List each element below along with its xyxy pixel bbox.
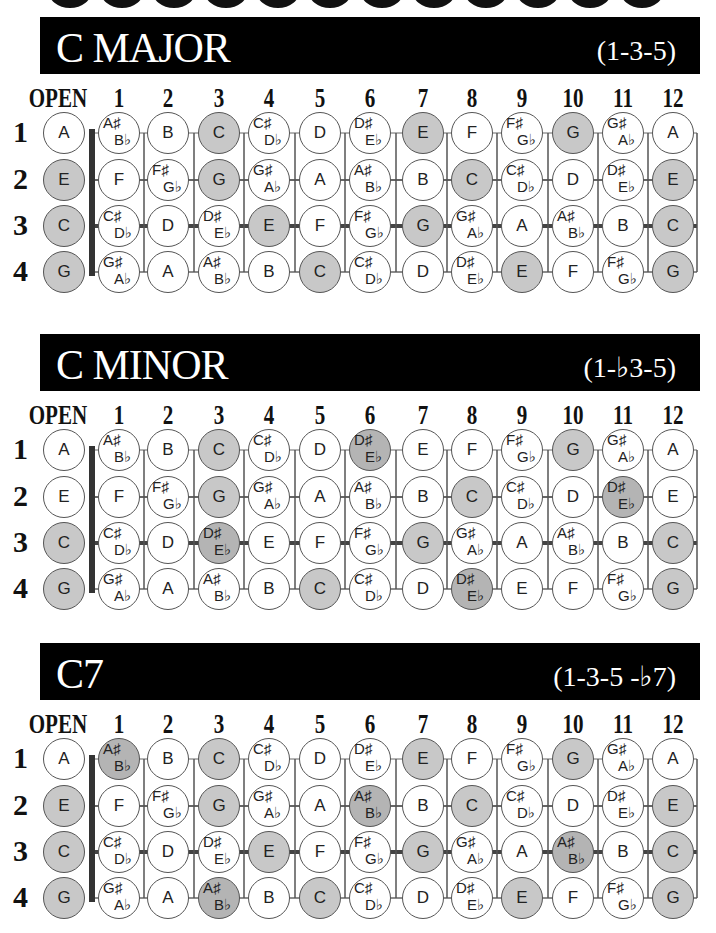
note-circle[interactable]: C: [299, 877, 341, 919]
note-circle[interactable]: C♯D♭: [501, 159, 543, 201]
note-circle[interactable]: B: [248, 568, 290, 610]
note-circle[interactable]: A♯B♭: [349, 785, 391, 827]
note-circle[interactable]: B: [147, 112, 189, 154]
note-circle[interactable]: G♯A♭: [98, 568, 140, 610]
note-circle[interactable]: C♯D♭: [349, 877, 391, 919]
note-circle[interactable]: E: [652, 476, 694, 518]
note-circle[interactable]: B: [402, 785, 444, 827]
note-circle[interactable]: A♯B♭: [98, 429, 140, 471]
note-circle[interactable]: F: [299, 831, 341, 873]
note-circle[interactable]: A: [652, 429, 694, 471]
note-circle[interactable]: B: [402, 476, 444, 518]
note-circle[interactable]: E: [248, 205, 290, 247]
note-circle[interactable]: A: [43, 429, 85, 471]
note-circle[interactable]: D♯E♭: [349, 429, 391, 471]
note-circle[interactable]: F: [451, 112, 493, 154]
note-circle[interactable]: G♯A♭: [602, 738, 644, 780]
note-circle[interactable]: A♯B♭: [198, 568, 240, 610]
note-circle[interactable]: E: [501, 877, 543, 919]
note-circle[interactable]: A♯B♭: [98, 738, 140, 780]
note-circle[interactable]: C♯D♭: [349, 568, 391, 610]
note-circle[interactable]: D♯E♭: [349, 738, 391, 780]
note-circle[interactable]: A♯B♭: [349, 476, 391, 518]
note-circle[interactable]: F: [552, 877, 594, 919]
note-circle[interactable]: G: [402, 205, 444, 247]
note-circle[interactable]: G♯A♭: [248, 785, 290, 827]
note-circle[interactable]: A: [501, 522, 543, 564]
note-circle[interactable]: F♯G♭: [349, 831, 391, 873]
note-circle[interactable]: A: [652, 738, 694, 780]
note-circle[interactable]: G: [652, 568, 694, 610]
note-circle[interactable]: G♯A♭: [98, 251, 140, 293]
note-circle[interactable]: C: [451, 785, 493, 827]
note-circle[interactable]: C♯D♭: [248, 112, 290, 154]
note-circle[interactable]: D: [552, 159, 594, 201]
note-circle[interactable]: C: [198, 429, 240, 471]
note-circle[interactable]: D: [402, 568, 444, 610]
note-circle[interactable]: B: [602, 522, 644, 564]
note-circle[interactable]: F♯G♭: [349, 205, 391, 247]
note-circle[interactable]: G: [652, 251, 694, 293]
note-circle[interactable]: C: [299, 251, 341, 293]
note-circle[interactable]: F♯G♭: [147, 159, 189, 201]
note-circle[interactable]: A: [299, 785, 341, 827]
note-circle[interactable]: F♯G♭: [602, 568, 644, 610]
note-circle[interactable]: G: [552, 738, 594, 780]
note-circle[interactable]: D: [402, 877, 444, 919]
note-circle[interactable]: D♯E♭: [451, 251, 493, 293]
note-circle[interactable]: F♯G♭: [501, 738, 543, 780]
note-circle[interactable]: E: [402, 738, 444, 780]
note-circle[interactable]: A♯B♭: [198, 251, 240, 293]
note-circle[interactable]: G: [652, 877, 694, 919]
note-circle[interactable]: F♯G♭: [349, 522, 391, 564]
note-circle[interactable]: C♯D♭: [248, 429, 290, 471]
note-circle[interactable]: G♯A♭: [248, 476, 290, 518]
note-circle[interactable]: G: [43, 568, 85, 610]
note-circle[interactable]: C: [43, 522, 85, 564]
note-circle[interactable]: D♯E♭: [602, 476, 644, 518]
note-circle[interactable]: E: [248, 522, 290, 564]
note-circle[interactable]: C: [198, 112, 240, 154]
note-circle[interactable]: C♯D♭: [248, 738, 290, 780]
note-circle[interactable]: F♯G♭: [501, 429, 543, 471]
note-circle[interactable]: C: [451, 159, 493, 201]
note-circle[interactable]: G♯A♭: [602, 429, 644, 471]
note-circle[interactable]: E: [43, 476, 85, 518]
note-circle[interactable]: E: [652, 785, 694, 827]
note-circle[interactable]: F♯G♭: [147, 476, 189, 518]
note-circle[interactable]: F: [552, 251, 594, 293]
note-circle[interactable]: D: [299, 738, 341, 780]
note-circle[interactable]: F: [98, 785, 140, 827]
note-circle[interactable]: D♯E♭: [349, 112, 391, 154]
note-circle[interactable]: G♯A♭: [248, 159, 290, 201]
note-circle[interactable]: F♯G♭: [602, 877, 644, 919]
note-circle[interactable]: F: [552, 568, 594, 610]
note-circle[interactable]: F♯G♭: [501, 112, 543, 154]
note-circle[interactable]: E: [43, 159, 85, 201]
note-circle[interactable]: F: [451, 429, 493, 471]
note-circle[interactable]: C♯D♭: [501, 476, 543, 518]
note-circle[interactable]: G: [552, 429, 594, 471]
note-circle[interactable]: C: [652, 522, 694, 564]
note-circle[interactable]: C♯D♭: [501, 785, 543, 827]
note-circle[interactable]: A♯B♭: [349, 159, 391, 201]
note-circle[interactable]: G: [198, 785, 240, 827]
note-circle[interactable]: C: [299, 568, 341, 610]
note-circle[interactable]: B: [147, 738, 189, 780]
note-circle[interactable]: C: [652, 831, 694, 873]
note-circle[interactable]: A: [652, 112, 694, 154]
note-circle[interactable]: C: [652, 205, 694, 247]
note-circle[interactable]: B: [602, 205, 644, 247]
note-circle[interactable]: G: [402, 522, 444, 564]
note-circle[interactable]: G: [43, 251, 85, 293]
note-circle[interactable]: C♯D♭: [98, 522, 140, 564]
note-circle[interactable]: D: [147, 522, 189, 564]
note-circle[interactable]: G: [402, 831, 444, 873]
note-circle[interactable]: C♯D♭: [98, 205, 140, 247]
note-circle[interactable]: B: [602, 831, 644, 873]
note-circle[interactable]: C: [43, 831, 85, 873]
note-circle[interactable]: F: [299, 522, 341, 564]
note-circle[interactable]: A♯B♭: [98, 112, 140, 154]
note-circle[interactable]: G: [198, 159, 240, 201]
note-circle[interactable]: B: [402, 159, 444, 201]
